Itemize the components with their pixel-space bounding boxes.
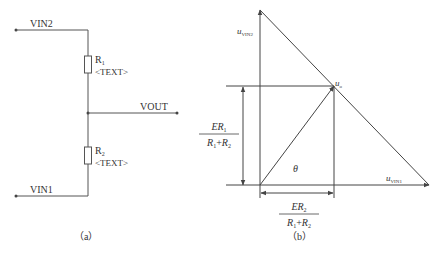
vout-terminal bbox=[176, 112, 179, 115]
svg-text:R1+R2: R1+R2 bbox=[206, 137, 231, 149]
circuit-schematic: VIN2 VOUT VIN1 R1 <TEXT> R2 <TEXT> （a） bbox=[15, 18, 179, 242]
u-vin2-label: uVIN2 bbox=[237, 26, 253, 37]
diagram-canvas: VIN2 VOUT VIN1 R1 <TEXT> R2 <TEXT> （a） u… bbox=[0, 0, 442, 253]
vin1-terminal bbox=[15, 195, 18, 198]
resistor-r2 bbox=[85, 147, 92, 164]
caption-a: （a） bbox=[74, 231, 98, 242]
vertical-dimension-fraction: ER1 R1+R2 bbox=[199, 121, 239, 149]
r1-label: R1 bbox=[95, 54, 105, 66]
hypotenuse-line bbox=[260, 10, 429, 185]
theta-label: θ bbox=[293, 163, 298, 174]
vin2-label: VIN2 bbox=[30, 18, 53, 29]
svg-text:ER2: ER2 bbox=[290, 201, 306, 213]
caption-b: （b） bbox=[287, 231, 312, 242]
resistor-r1 bbox=[85, 56, 92, 73]
svg-text:R1+R2: R1+R2 bbox=[286, 217, 311, 229]
uo-label: uo bbox=[335, 78, 343, 89]
u-vin1-label: uVIN1 bbox=[386, 173, 402, 184]
r2-value: <TEXT> bbox=[95, 158, 128, 168]
svg-text:ER1: ER1 bbox=[210, 121, 226, 133]
r2-label: R2 bbox=[95, 145, 105, 157]
horizontal-dimension-fraction: ER2 R1+R2 bbox=[279, 201, 319, 229]
vector-diagram: uVIN2 uVIN1 uo θ ER1 R1+R2 ER2 R1+R2 （b） bbox=[199, 10, 429, 242]
vin1-label: VIN1 bbox=[30, 184, 53, 195]
vout-label: VOUT bbox=[140, 101, 168, 112]
r1-value: <TEXT> bbox=[95, 67, 128, 77]
